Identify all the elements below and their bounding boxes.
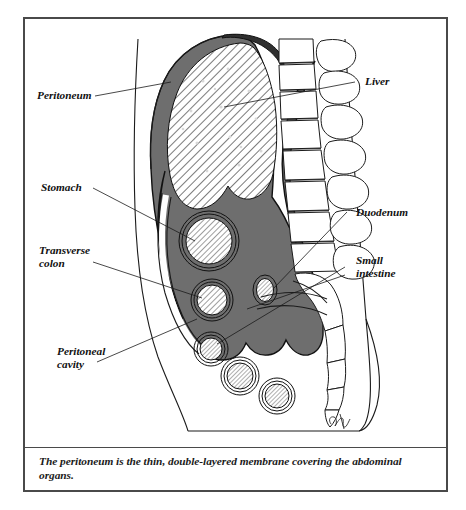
- stomach-organ: [179, 211, 239, 271]
- vertebral-body-7: [288, 212, 334, 242]
- label-duodenum: Duodenum: [355, 206, 408, 218]
- duodenum-organ: [253, 275, 277, 305]
- label-liver: Liver: [364, 75, 390, 87]
- spinous-process-5: [327, 175, 369, 209]
- label-peritoneal-cavity-line1: Peritoneal: [57, 345, 106, 357]
- vertebral-body-8: [291, 243, 339, 272]
- label-small-intestine-line1: Small: [356, 254, 384, 266]
- vertebral-body-1: [279, 39, 314, 63]
- spinous-process-3: [321, 105, 363, 139]
- transverse-colon-lumen: [197, 285, 227, 315]
- label-small-intestine-line2: intestine: [356, 267, 396, 279]
- coccyx-upper: [325, 387, 344, 410]
- sacrum-lower-segment: [327, 359, 346, 390]
- stomach-lumen: [186, 218, 232, 264]
- diagram-area: Peritoneum Stomach Transverse colon Peri…: [25, 19, 446, 447]
- vertebral-body-5: [283, 150, 325, 180]
- figure-frame: Peritoneum Stomach Transverse colon Peri…: [23, 17, 448, 492]
- caption-area: The peritoneum is the thin, double-layer…: [25, 448, 446, 490]
- figure-caption: The peritoneum is the thin, double-layer…: [25, 455, 446, 482]
- vertebral-body-4: [281, 120, 321, 149]
- spinous-process-4: [324, 140, 366, 174]
- gluteal-curve: [359, 319, 379, 431]
- vertebral-body-2: [279, 64, 316, 90]
- transverse-colon-organ: [191, 279, 233, 321]
- label-stomach: Stomach: [41, 181, 82, 193]
- label-group-left: Peritoneum Stomach Transverse colon Peri…: [37, 89, 106, 370]
- spinous-process-1: [316, 39, 355, 71]
- vertebral-body-6: [285, 181, 329, 211]
- figure-page: Peritoneum Stomach Transverse colon Peri…: [0, 0, 466, 510]
- small-intestine-loop-2: [221, 357, 259, 395]
- duodenum-lumen: [257, 279, 274, 302]
- label-transverse-colon-line1: Transverse: [39, 244, 90, 256]
- label-transverse-colon-line2: colon: [39, 257, 65, 269]
- label-peritoneum: Peritoneum: [37, 89, 92, 101]
- coccyx-tip: [325, 410, 339, 427]
- anatomy-illustration: Peritoneum Stomach Transverse colon Peri…: [25, 19, 446, 447]
- leader-peritoneal-cavity: [97, 319, 197, 362]
- label-peritoneal-cavity-line2: cavity: [57, 358, 85, 370]
- sacrum-mid-segment: [325, 325, 345, 363]
- small-intestine-loop-3: [259, 378, 295, 414]
